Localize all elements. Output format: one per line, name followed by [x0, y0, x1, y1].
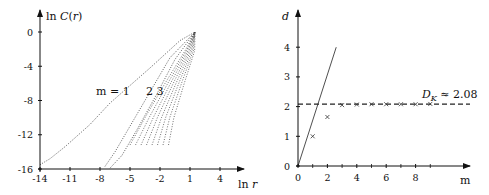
right-y-tick: 0 [284, 161, 290, 172]
left-y-tick: 0 [27, 27, 33, 38]
left-x-tick: -14 [32, 173, 47, 184]
dk-annotation: DK ≈ 2.08 [421, 88, 478, 103]
right-y-tick: 2 [284, 101, 290, 112]
left-y-tick: -16 [18, 164, 33, 175]
right-y-label: d [282, 10, 289, 23]
left-x-tick: -5 [125, 173, 134, 184]
series-m=4..10 [169, 32, 196, 145]
right-x-tick: 4 [354, 172, 360, 183]
figure: -14-11-8-5-2140-4-8-12-16 ln C(r) ln r m… [0, 0, 489, 195]
label-m1: m = 1 [96, 85, 130, 98]
right-series-group [298, 47, 470, 166]
left-ticks: -14-11-8-5-2140-4-8-12-16 [18, 27, 223, 185]
label-m23: 2 3 [146, 85, 164, 98]
right-x-tick: 8 [413, 172, 419, 183]
left-x-tick: 1 [187, 173, 193, 184]
right-x-tick: 0 [295, 172, 301, 183]
left-x-label: ln r [238, 178, 258, 191]
data-marker [325, 115, 329, 119]
left-y-label: ln C(r) [46, 10, 82, 23]
left-x-tick: -8 [95, 173, 104, 184]
right-x-label: m [460, 174, 471, 187]
left-y-tick: -4 [24, 61, 33, 72]
data-marker [311, 134, 315, 138]
right-y-tick: 1 [284, 131, 290, 142]
correlation-integral-chart: -14-11-8-5-2140-4-8-12-16 ln C(r) ln r m… [18, 10, 258, 191]
dimension-estimate-chart: 0246801234 d m DK ≈ 2.08 [282, 10, 478, 187]
left-y-tick: -12 [18, 129, 33, 140]
right-y-tick: 3 [284, 71, 290, 82]
series-m=2 [105, 32, 195, 166]
series-m=4..10 [136, 32, 196, 145]
right-x-tick: 2 [324, 172, 330, 183]
right-x-tick: 6 [383, 172, 389, 183]
left-y-tick: -8 [24, 95, 33, 106]
left-x-tick: 4 [217, 173, 223, 184]
series-m=3 [110, 32, 195, 168]
left-x-tick: -2 [155, 173, 164, 184]
right-y-tick: 4 [284, 42, 290, 53]
series-m=1 [40, 32, 195, 165]
left-x-tick: -11 [62, 173, 77, 184]
identity-line [298, 47, 336, 166]
left-series-group [40, 32, 195, 168]
right-ticks: 0246801234 [284, 42, 430, 183]
